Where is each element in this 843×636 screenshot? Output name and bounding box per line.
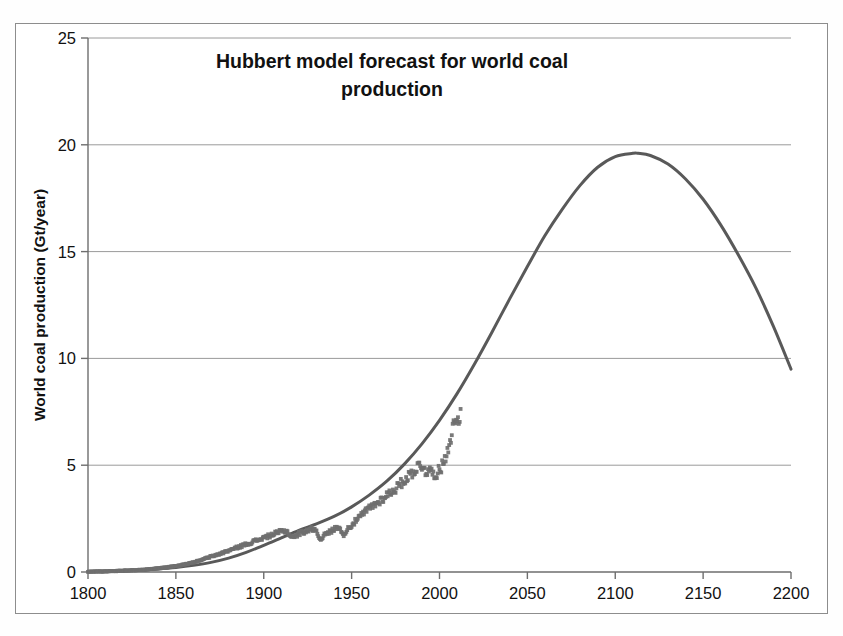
svg-text:25: 25 [58, 29, 76, 47]
svg-text:2200: 2200 [773, 584, 810, 602]
svg-text:20: 20 [58, 136, 76, 154]
y-axis-tick-labels: 0510152025 [58, 29, 76, 581]
x-axis-ticks [88, 572, 791, 579]
plot-area-background [88, 38, 791, 572]
svg-text:5: 5 [67, 456, 76, 474]
svg-text:2000: 2000 [421, 584, 458, 602]
svg-text:1950: 1950 [333, 584, 370, 602]
chart-title-line1: Hubbert model forecast for world coal [216, 50, 568, 72]
svg-text:2050: 2050 [509, 584, 546, 602]
hubbert-coal-production-chart: 0510152025 18001850190019502000205021002… [0, 0, 843, 636]
svg-text:2100: 2100 [597, 584, 634, 602]
y-axis-label: World coal production (Gt/year) [31, 189, 48, 421]
svg-text:0: 0 [67, 563, 76, 581]
chart-title-line2: production [341, 78, 443, 100]
chart-screenshot: 0510152025 18001850190019502000205021002… [0, 0, 843, 636]
svg-text:1850: 1850 [158, 584, 195, 602]
svg-text:15: 15 [58, 243, 76, 261]
svg-text:2150: 2150 [685, 584, 722, 602]
svg-text:10: 10 [58, 349, 76, 367]
svg-text:1900: 1900 [245, 584, 282, 602]
y-axis-ticks [81, 38, 88, 572]
x-axis-tick-labels: 180018501900195020002050210021502200 [70, 584, 810, 602]
svg-text:1800: 1800 [70, 584, 107, 602]
